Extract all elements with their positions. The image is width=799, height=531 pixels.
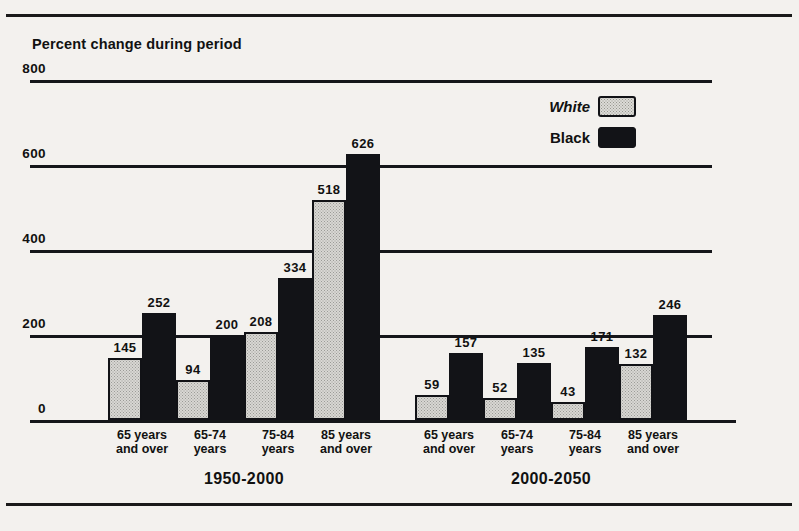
legend-item-white: White [516, 96, 636, 120]
category-label-line1: 85 years [603, 428, 703, 442]
category-label-line1: 85 years [296, 428, 396, 442]
bar-white [415, 395, 449, 420]
bar-value-label: 626 [339, 136, 387, 151]
legend-swatch-black [598, 127, 636, 148]
bar-white [244, 332, 278, 420]
bar-value-label: 246 [646, 297, 694, 312]
bar-white [176, 380, 210, 420]
bar-value-label: 252 [135, 295, 183, 310]
legend-label-black: Black [550, 129, 590, 146]
legend-item-black: Black [516, 127, 636, 151]
category-label-line2: and over [603, 442, 703, 456]
plot-area: 0200400600800 14525294200208334518626591… [0, 0, 799, 531]
bar-value-label: 135 [510, 345, 558, 360]
legend-label-white: White [549, 98, 590, 115]
bar-black [346, 154, 380, 420]
category-label: 85 yearsand over [603, 428, 703, 456]
category-label: 85 yearsand over [296, 428, 396, 456]
bar-white [483, 398, 517, 420]
bar-white [108, 358, 142, 420]
bars-layer: 1452529420020833451862659157521354317113… [0, 0, 799, 421]
chart-figure: Percent change during period 02004006008… [0, 0, 799, 531]
bar-white [619, 364, 653, 420]
bar-black [278, 278, 312, 420]
bar-black [653, 315, 687, 420]
legend: White Black [516, 96, 636, 158]
bar-value-label: 157 [442, 335, 490, 350]
period-label: 1950-2000 [68, 470, 420, 488]
bar-value-label: 171 [578, 329, 626, 344]
category-label-line2: and over [296, 442, 396, 456]
bar-white [551, 402, 585, 420]
bar-black [210, 335, 244, 420]
legend-swatch-white [598, 96, 636, 117]
period-label: 2000-2050 [375, 470, 727, 488]
bar-white [312, 200, 346, 420]
